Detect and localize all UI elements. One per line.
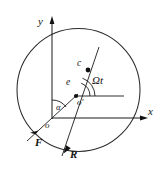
figure-container: y x o c e Ωt α o' F R — [0, 0, 160, 169]
force-R-label: R — [69, 148, 77, 160]
x-axis-label: x — [147, 105, 153, 117]
force-F-arrowhead — [30, 131, 39, 135]
y-axis-arrowhead — [50, 16, 55, 24]
point-c-label: c — [77, 58, 82, 68]
omega-t-label: Ωt — [92, 74, 104, 86]
origin-label: o — [45, 120, 50, 130]
alpha-label: α — [56, 102, 61, 112]
y-axis-label: y — [37, 15, 43, 27]
diagram-canvas: y x o c e Ωt α o' F R — [0, 0, 160, 169]
eccentricity-label: e — [66, 77, 70, 87]
x-axis-arrowhead — [140, 116, 148, 121]
center-prime-label: o' — [77, 97, 85, 107]
point-c-marker — [86, 68, 91, 73]
force-F-label: F — [34, 136, 43, 148]
